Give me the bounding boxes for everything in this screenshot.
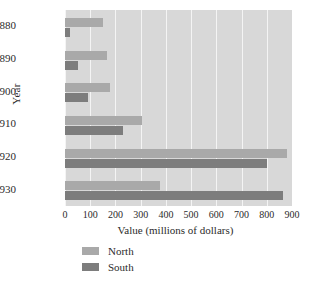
x-tick-label-300: 300 [133,209,148,221]
bar-north-1910 [65,116,142,125]
bar-north-1920 [65,149,287,158]
legend-label-north: North [108,246,134,257]
legend-item-south: South [82,259,134,275]
y-tick-label-1880: 1880 [0,20,16,31]
legend-swatch-north [82,247,99,255]
bar-chart: Year 188018901900191019201930 0100200300… [0,0,313,286]
x-axis-title: Value (millions of dollars) [0,224,313,236]
bar-row [65,75,292,108]
legend-label-south: South [108,262,134,273]
x-tick-label-400: 400 [158,209,173,221]
bar-north-1930 [65,181,160,190]
bar-row [65,173,292,206]
x-tick-label-600: 600 [209,209,224,221]
plot-area [65,10,292,206]
bar-south-1900 [65,93,88,102]
legend-swatch-south [82,263,99,271]
x-tick-label-200: 200 [108,209,123,221]
bar-row [65,108,292,141]
x-tick-label-800: 800 [259,209,274,221]
x-tick-label-900: 900 [285,209,300,221]
x-tick-label-0: 0 [63,209,68,221]
legend-item-north: North [82,243,134,259]
x-tick-label-100: 100 [83,209,98,221]
x-tick-label-700: 700 [234,209,249,221]
bar-north-1900 [65,83,110,92]
y-tick-label-1890: 1890 [0,53,16,64]
legend: NorthSouth [82,243,134,275]
bar-south-1920 [65,159,267,168]
bar-south-1880 [65,28,70,37]
bar-north-1890 [65,51,107,60]
bar-row [65,10,292,43]
y-tick-label-1930: 1930 [0,184,16,195]
x-axis-tick-labels: 0100200300400500600700800900 [0,209,313,223]
bar-south-1890 [65,61,78,70]
bar-north-1880 [65,18,103,27]
x-tick-label-500: 500 [184,209,199,221]
bar-south-1930 [65,191,283,200]
y-tick-label-1910: 1910 [0,118,16,129]
bar-row [65,43,292,76]
y-tick-label-1920: 1920 [0,151,16,162]
bar-south-1910 [65,126,123,135]
bar-row [65,141,292,174]
y-tick-label-1900: 1900 [0,86,16,97]
